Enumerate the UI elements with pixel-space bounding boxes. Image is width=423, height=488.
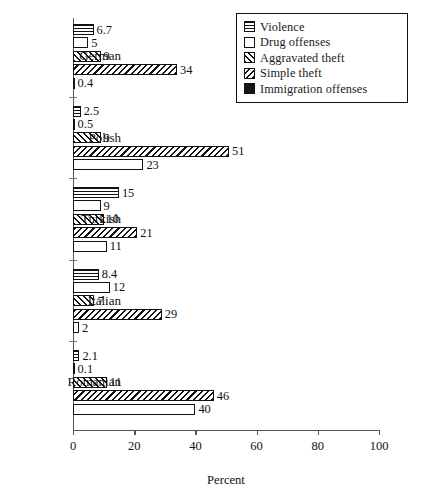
x-tick-0: [73, 430, 74, 435]
y-tick-polish: [69, 97, 77, 98]
legend-swatch-violence: [244, 21, 255, 32]
bar-value-german-violence: 6.7: [97, 22, 113, 37]
y-axis-label-german: German: [79, 48, 121, 64]
x-tick-80: [318, 430, 319, 435]
bar-italian-drug-offenses: [73, 282, 110, 293]
x-tick-label-100: 100: [370, 439, 389, 454]
x-tick-label-80: 80: [312, 439, 325, 454]
bar-german-immigration-offenses: [73, 78, 75, 89]
legend-item-aggravated-theft: Aggravated theft: [244, 50, 401, 66]
bar-turkish-immigration-offenses: [73, 241, 107, 252]
bar-italian-immigration-offenses: [73, 322, 79, 333]
bar-value-german-simple-theft: 34: [180, 62, 192, 77]
y-tick-italian: [69, 260, 77, 261]
bar-value-romanian-simple-theft: 46: [217, 388, 229, 403]
bar-polish-immigration-offenses: [73, 159, 143, 170]
bar-value-turkish-immigration-offenses: 11: [110, 239, 122, 254]
bar-value-turkish-violence: 15: [122, 185, 134, 200]
bar-value-polish-immigration-offenses: 23: [146, 157, 158, 172]
bar-turkish-simple-theft: [73, 227, 137, 238]
legend-swatch-simple-theft: [244, 68, 255, 79]
legend-swatch-drug-offenses: [244, 37, 255, 48]
y-axis-label-italian: Italian: [88, 293, 121, 309]
y-tick-turkish: [69, 178, 77, 179]
legend-item-simple-theft: Simple theft: [244, 66, 401, 82]
x-tick-100: [379, 430, 380, 435]
x-tick-label-20: 20: [128, 439, 141, 454]
x-tick-40: [195, 430, 196, 435]
x-tick-label-60: 60: [250, 439, 263, 454]
legend-item-drug-offenses: Drug offenses: [244, 35, 401, 51]
bar-romanian-drug-offenses: [73, 363, 75, 374]
y-tick-romanian: [69, 341, 77, 342]
bar-turkish-drug-offenses: [73, 200, 101, 211]
bar-value-italian-immigration-offenses: 2: [82, 320, 88, 335]
x-tick-label-0: 0: [70, 439, 76, 454]
x-tick-20: [134, 430, 135, 435]
x-axis-title: Percent: [73, 473, 379, 488]
legend-item-violence: Violence: [244, 19, 401, 35]
bar-romanian-simple-theft: [73, 390, 214, 401]
legend-label-violence: Violence: [260, 21, 304, 33]
bar-turkish-violence: [73, 187, 119, 198]
bar-value-italian-simple-theft: 29: [165, 307, 177, 322]
bar-romanian-immigration-offenses: [73, 404, 195, 415]
x-tick-label-40: 40: [189, 439, 202, 454]
bar-romanian-violence: [73, 350, 79, 361]
bar-value-turkish-simple-theft: 21: [140, 225, 152, 240]
bar-german-drug-offenses: [73, 37, 88, 48]
bar-polish-violence: [73, 106, 81, 117]
x-tick-60: [257, 430, 258, 435]
bar-value-polish-simple-theft: 51: [232, 144, 244, 159]
chart-legend: Violence Drug offenses Aggravated theft …: [236, 13, 408, 103]
bar-italian-simple-theft: [73, 309, 162, 320]
y-axis-label-romanian: Romanian: [68, 374, 121, 390]
legend-label-immigration-offenses: Immigration offenses: [260, 83, 367, 95]
y-axis-label-polish: Polish: [88, 130, 121, 146]
bar-polish-drug-offenses: [73, 119, 75, 130]
legend-label-aggravated-theft: Aggravated theft: [260, 52, 345, 64]
bar-value-romanian-immigration-offenses: 40: [198, 402, 210, 417]
legend-item-immigration-offenses: Immigration offenses: [244, 81, 401, 97]
bar-value-german-immigration-offenses: 0.4: [78, 76, 94, 91]
bar-polish-simple-theft: [73, 146, 229, 157]
y-axis-label-turkish: Turkish: [81, 211, 121, 227]
legend-label-drug-offenses: Drug offenses: [260, 36, 330, 48]
bar-german-simple-theft: [73, 64, 177, 75]
legend-label-simple-theft: Simple theft: [260, 67, 322, 79]
legend-swatch-aggravated-theft: [244, 52, 255, 63]
x-axis-line: [73, 430, 380, 431]
legend-swatch-immigration-offenses: [244, 83, 255, 94]
bar-german-violence: [73, 24, 94, 35]
bar-italian-violence: [73, 269, 99, 280]
